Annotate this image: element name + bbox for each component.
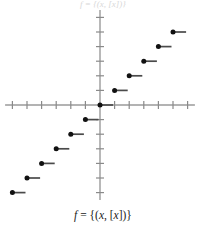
caption-closing-brackets: ])} [119, 209, 132, 221]
figure-container: f = {(x, [x])} f = {(x, [x])} [0, 0, 206, 232]
step-endpoint-dot [98, 103, 103, 108]
step-endpoint-dot [141, 59, 146, 64]
step-endpoint-dot [156, 44, 161, 49]
plot-area [0, 8, 206, 206]
figure-caption: f = {(x, [x])} [0, 208, 206, 223]
step-function-plot [0, 8, 206, 206]
caption-comma-bracket: , [ [104, 209, 114, 221]
step-endpoint-dot [54, 146, 59, 151]
step-endpoint-dot [171, 30, 176, 35]
step-endpoint-dot [127, 73, 132, 78]
step-endpoint-dot [39, 161, 44, 166]
step-endpoint-dot [68, 132, 73, 137]
step-endpoint-dot [112, 88, 117, 93]
step-endpoint-dot [10, 190, 15, 195]
step-endpoint-dot [25, 176, 30, 181]
step-endpoint-dot [83, 117, 88, 122]
caption-equals-open: = {( [77, 209, 99, 221]
